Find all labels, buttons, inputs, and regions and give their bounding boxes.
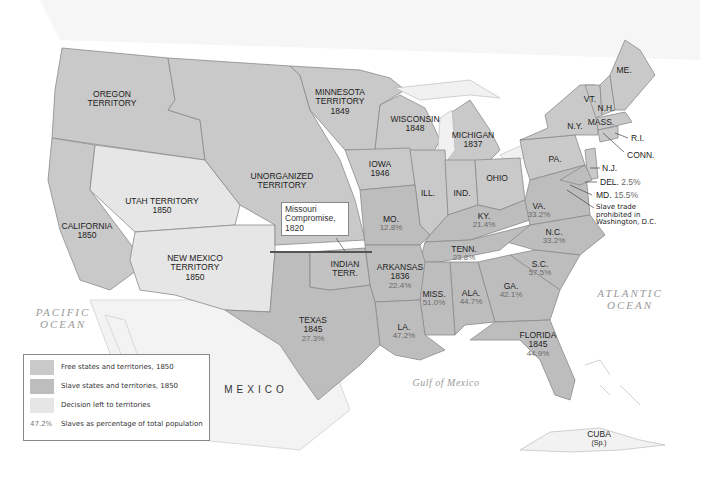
label-new-hampshire: N.H. (598, 104, 615, 113)
label-louisiana: LA.47.2% (393, 323, 416, 341)
label-south-carolina: S.C.57.5% (529, 260, 552, 278)
label-mississippi: MISS.51.0% (422, 290, 445, 308)
label-connecticut: CONN. (627, 151, 654, 160)
label-new-york: N.Y. (567, 122, 582, 131)
label-indian-territory: INDIAN TERR. (331, 260, 360, 279)
dc-slave-trade-note: Slave trade prohibited in Washington, D.… (596, 204, 656, 227)
legend-item-slave: Slave states and territories, 1850 (30, 378, 178, 394)
label-georgia: GA.42.1% (500, 282, 523, 300)
label-ohio: OHIO (486, 174, 508, 183)
label-arkansas: ARKANSAS183622.4% (377, 263, 423, 290)
missouri-compromise-callout: Missouri Compromise, 1820 (281, 202, 349, 236)
label-california: CALIFORNIA1850 (61, 222, 112, 241)
label-utah-territory: UTAH TERRITORY1850 (125, 197, 199, 216)
legend-item-free: Free states and territories, 1850 (30, 359, 174, 375)
label-maine: ME. (616, 66, 631, 75)
legend-item-decision: Decision left to territories (30, 397, 150, 413)
label-virginia: VA.33.2% (528, 202, 551, 220)
label-texas: TEXAS184527.3% (299, 316, 327, 343)
label-missouri: MO.12.8% (380, 215, 403, 233)
label-rhode-island: R.I. (631, 134, 644, 143)
label-michigan: MICHIGAN1837 (452, 131, 495, 150)
label-iowa: IOWA1946 (369, 160, 391, 179)
label-pennsylvania: PA. (548, 155, 561, 164)
label-cuba: CUBA(Sp.) (587, 430, 611, 447)
label-new-jersey: N.J. (602, 164, 617, 173)
free-swatch (30, 360, 54, 375)
label-atlantic-ocean: ATLANTIC OCEAN (597, 288, 663, 311)
label-mexico: MEXICO (224, 384, 287, 395)
label-new-mexico-territory: NEW MEXICO TERRITORY1850 (167, 254, 223, 282)
label-pacific-ocean: PACIFIC OCEAN (36, 307, 91, 330)
decision-swatch (30, 398, 54, 413)
label-kentucky: KY.21.4% (473, 212, 496, 230)
label-illinois: ILL. (421, 189, 435, 198)
label-tennessee: TENN.23.8% (451, 245, 477, 263)
label-unorganized-territory: UNORGANIZED TERRITORY (251, 172, 314, 191)
label-massachusetts: MASS. (588, 118, 614, 127)
legend-item-percentage: 47.2% Slaves as percentage of total popu… (30, 416, 203, 432)
label-north-carolina: N.C.33.2% (543, 228, 566, 246)
label-indiana: IND. (454, 189, 471, 198)
ohio (475, 158, 525, 210)
slave-swatch (30, 379, 54, 394)
label-gulf-of-mexico: Gulf of Mexico (413, 378, 480, 389)
label-delaware: DEL. 2.5% (600, 178, 641, 187)
label-alabama: ALA.44.7% (460, 289, 483, 307)
label-florida: FLORIDA184544.9% (520, 331, 557, 358)
label-maryland: MD. 15.5% (596, 191, 638, 200)
map-legend: Free states and territories, 1850 Slave … (23, 354, 210, 441)
label-vermont: VT. (584, 95, 596, 104)
label-oregon-territory: OREGON TERRITORY (88, 90, 137, 109)
label-minnesota-territory: MINNESOTA TERRITORY1849 (315, 88, 365, 116)
label-wisconsin: WISCONSIN1848 (390, 115, 439, 134)
